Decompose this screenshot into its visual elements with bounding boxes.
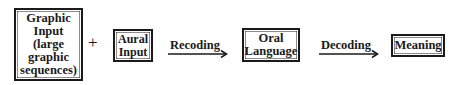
graphic-input-line-2: Input bbox=[34, 25, 64, 38]
decoding-arrow: Decoding bbox=[319, 38, 381, 58]
meaning-label: Meaning bbox=[394, 39, 441, 52]
graphic-input-line-1: Graphic bbox=[26, 12, 70, 25]
graphic-input-box: Graphic Input (large graphic sequences) bbox=[14, 8, 83, 81]
aural-input-line-2: Input bbox=[119, 46, 148, 59]
oral-language-box: Oral Language bbox=[242, 28, 300, 62]
arrow-right-icon bbox=[168, 50, 230, 58]
meaning-box: Meaning bbox=[391, 34, 445, 57]
aural-input-line-1: Aural bbox=[118, 33, 148, 46]
oral-language-line-2: Language bbox=[245, 45, 298, 58]
recoding-arrow: Recoding bbox=[168, 38, 230, 58]
plus-operator: + bbox=[88, 34, 98, 51]
graphic-input-line-5: sequences) bbox=[20, 64, 77, 77]
arrow-right-icon bbox=[319, 50, 381, 58]
aural-input-box: Aural Input bbox=[113, 29, 153, 62]
